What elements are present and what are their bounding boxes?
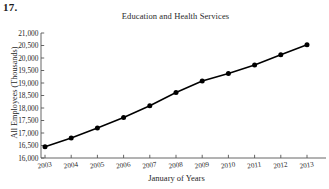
- data-point-marker: [174, 90, 179, 95]
- x-tick-label: 2007: [142, 161, 158, 171]
- data-point-marker: [121, 115, 126, 120]
- x-tick-label: 2008: [168, 161, 184, 171]
- data-point-marker: [278, 52, 283, 57]
- chart-figure: Education and Health Services All Employ…: [0, 0, 329, 189]
- x-tick-label: 2009: [194, 161, 210, 171]
- x-tick-label: 2004: [63, 161, 79, 171]
- y-tick-label: 16,000: [18, 154, 39, 163]
- data-point-marker: [305, 42, 310, 47]
- x-tick-label: 2003: [37, 161, 53, 171]
- x-tick-label: 2012: [273, 161, 289, 171]
- y-tick-label: 19,000: [18, 79, 39, 88]
- data-point-marker: [226, 71, 231, 76]
- x-tick-label: 2010: [220, 161, 236, 171]
- plot-area: 16,00016,50017,00017,50018,00018,50019,0…: [0, 0, 329, 189]
- y-tick-label: 18,500: [18, 91, 39, 100]
- y-tick-label: 18,000: [18, 104, 39, 113]
- y-tick-label: 21,000: [18, 29, 39, 38]
- x-tick-label: 2013: [299, 161, 315, 171]
- axes: [41, 33, 326, 158]
- x-tick-label: 2005: [89, 161, 105, 171]
- data-series: [43, 42, 310, 149]
- y-tick-label: 17,000: [18, 129, 39, 138]
- x-axis-ticks: 2003200420052006200720082009201020112012…: [37, 155, 315, 171]
- data-point-marker: [252, 63, 257, 68]
- data-point-marker: [95, 126, 100, 131]
- y-axis-ticks: 16,00016,50017,00017,50018,00018,50019,0…: [18, 29, 44, 163]
- y-tick-label: 19,500: [18, 66, 39, 75]
- y-tick-label: 20,500: [18, 41, 39, 50]
- x-tick-label: 2006: [116, 161, 132, 171]
- x-tick-label: 2011: [247, 161, 262, 171]
- y-tick-label: 20,000: [18, 54, 39, 63]
- data-point-marker: [147, 103, 152, 108]
- data-point-marker: [69, 136, 74, 141]
- data-point-marker: [200, 79, 205, 84]
- data-point-marker: [43, 144, 48, 149]
- y-tick-label: 17,500: [18, 116, 39, 125]
- x-axis-label: January of Years: [0, 173, 329, 183]
- y-tick-label: 16,500: [18, 141, 39, 150]
